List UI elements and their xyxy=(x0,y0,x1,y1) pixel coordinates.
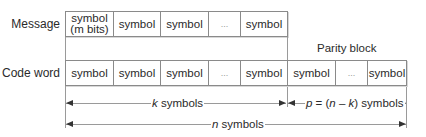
parity-symbol-cell: symbol xyxy=(288,61,336,85)
codeword-ellipsis-cell: ... xyxy=(209,61,241,85)
cell-text: symbol xyxy=(166,19,202,30)
cell-text: symbol xyxy=(119,19,155,30)
message-symbol-cell: symbol xyxy=(161,12,209,36)
parity-block-label: Parity block xyxy=(317,42,376,54)
message-symbol-cell: symbol xyxy=(241,12,288,36)
p-label-text: ) symbols xyxy=(354,97,403,109)
p-label-text: = ( xyxy=(312,97,329,109)
codeword-symbol-cell: symbol xyxy=(241,61,288,85)
k-arrow-right-head-icon xyxy=(279,100,286,106)
codeword-row-label: Code word xyxy=(0,66,60,80)
p-symbols-label: p = (n – k) symbols xyxy=(305,97,405,109)
cell-text: symbol xyxy=(166,68,202,79)
cell-text: ... xyxy=(221,68,229,79)
message-ellipsis-cell: ... xyxy=(209,12,241,36)
cell-text: symbol xyxy=(369,68,405,79)
codeword-symbol-cell: symbol xyxy=(114,61,161,85)
n-symbols-label: n symbols xyxy=(211,118,265,130)
message-block: symbol (m bits) symbol symbol ... symbol xyxy=(65,11,288,37)
parity-symbol-cell: symbol xyxy=(368,61,407,85)
n-label-text: symbols xyxy=(218,118,263,130)
cell-text: symbol xyxy=(246,68,282,79)
k-arrow-left-head-icon xyxy=(66,100,73,106)
codeword-symbol-cell: symbol xyxy=(66,61,114,85)
k-symbols-label: k symbols xyxy=(151,97,204,109)
message-symbol-cell: symbol (m bits) xyxy=(66,12,114,36)
k-label-text: symbols xyxy=(158,97,203,109)
codeword-block: symbol symbol symbol ... symbol symbol .… xyxy=(65,60,407,86)
cell-text: symbol xyxy=(119,68,155,79)
cell-text: ... xyxy=(221,19,229,30)
parity-ellipsis-cell: ... xyxy=(336,61,368,85)
cell-text: symbol xyxy=(293,68,329,79)
cell-text: ... xyxy=(348,68,356,79)
message-row-label: Message xyxy=(0,17,60,31)
cell-text: symbol xyxy=(246,19,282,30)
cell-text: symbol xyxy=(71,68,107,79)
cell-subtext: (m bits) xyxy=(70,24,108,35)
n-arrow-left-head-icon xyxy=(66,121,73,127)
codeword-symbol-cell: symbol xyxy=(161,61,209,85)
p-label-text: – xyxy=(336,97,349,109)
p-arrow-left-head-icon xyxy=(288,100,295,106)
right-guide-line xyxy=(406,86,407,128)
message-symbol-cell: symbol xyxy=(114,12,161,36)
n-arrow-right-head-icon xyxy=(399,121,406,127)
